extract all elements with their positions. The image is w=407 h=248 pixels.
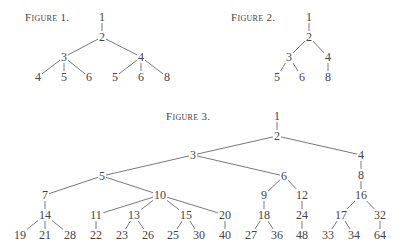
- tree-node: 2: [305, 31, 313, 43]
- tree-node: 19: [13, 229, 27, 241]
- tree-node: 24: [295, 209, 309, 221]
- tree-node: 1: [98, 11, 106, 23]
- tree-node: 30: [192, 229, 206, 241]
- tree-node: 4: [34, 71, 42, 83]
- tree-node: 10: [153, 189, 167, 201]
- tree-node: 26: [141, 229, 155, 241]
- tree-node: 3: [60, 51, 68, 63]
- tree-node: 5: [111, 71, 119, 83]
- tree-edge: [64, 37, 102, 57]
- tree-node: 2: [273, 130, 281, 142]
- tree-node: 6: [137, 71, 145, 83]
- tree-node: 4: [357, 149, 365, 161]
- tree-node: 13: [127, 209, 141, 221]
- tree-edge: [277, 136, 361, 155]
- tree-node: 4: [324, 51, 332, 63]
- tree-node: 23: [115, 229, 129, 241]
- tree-node: 8: [357, 169, 365, 181]
- tree-node: 12: [295, 189, 309, 201]
- tree-node: 2: [98, 31, 106, 43]
- tree-node: 6: [298, 71, 306, 83]
- tree-edge: [193, 136, 277, 155]
- figure-2-label: Figure 2.: [231, 11, 275, 23]
- tree-edge: [45, 176, 102, 195]
- tree-node: 9: [260, 189, 268, 201]
- tree-node: 64: [373, 229, 387, 241]
- tree-node: 21: [38, 229, 52, 241]
- tree-node: 16: [354, 189, 368, 201]
- tree-node: 4: [137, 51, 145, 63]
- tree-node: 22: [89, 229, 103, 241]
- tree-node: 40: [218, 229, 232, 241]
- tree-node: 6: [280, 170, 288, 182]
- tree-node: 14: [38, 209, 52, 221]
- tree-edge: [102, 37, 141, 57]
- tree-node: 3: [189, 149, 197, 161]
- tree-node: 6: [85, 71, 93, 83]
- tree-node: 1: [305, 11, 313, 23]
- tree-node: 34: [347, 229, 361, 241]
- tree-node: 36: [270, 229, 284, 241]
- tree-node: 32: [373, 209, 387, 221]
- tree-node: 5: [273, 71, 281, 83]
- tree-node: 25: [166, 229, 180, 241]
- tree-edge: [102, 155, 193, 176]
- tree-node: 1: [273, 110, 281, 122]
- tree-node: 28: [63, 229, 77, 241]
- tree-node: 7: [41, 189, 49, 201]
- tree-node: 8: [324, 71, 332, 83]
- tree-node: 17: [334, 209, 348, 221]
- tree-node: 20: [218, 209, 232, 221]
- tree-node: 27: [244, 229, 258, 241]
- tree-node: 11: [89, 209, 103, 221]
- tree-node: 18: [257, 209, 271, 221]
- tree-node: 3: [285, 51, 293, 63]
- tree-node: 8: [163, 71, 171, 83]
- tree-node: 5: [98, 170, 106, 182]
- figure-1-label: Figure 1.: [25, 11, 69, 23]
- tree-node: 48: [295, 229, 309, 241]
- tree-node: 5: [60, 71, 68, 83]
- tree-edge: [193, 155, 284, 176]
- tree-edge: [102, 176, 160, 195]
- tree-node: 33: [321, 229, 335, 241]
- figure-3-label: Figure 3.: [166, 110, 210, 122]
- tree-node: 15: [179, 209, 193, 221]
